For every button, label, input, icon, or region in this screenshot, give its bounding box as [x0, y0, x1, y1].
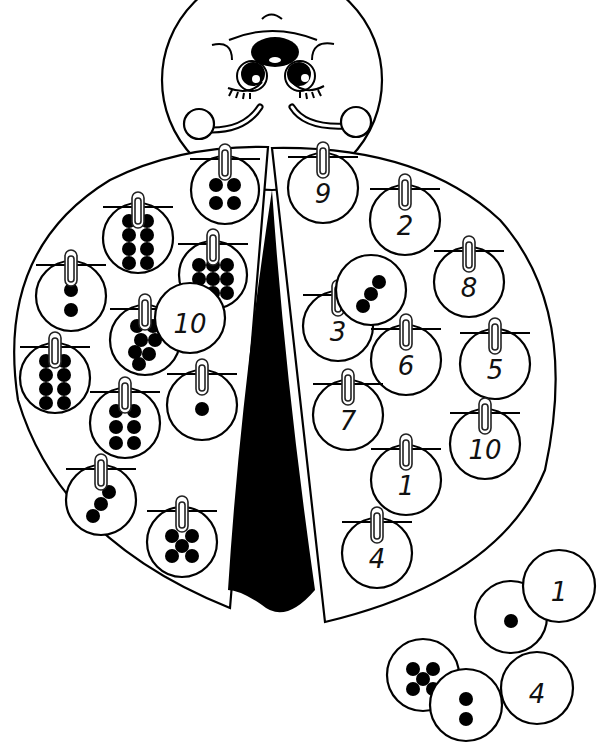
dot — [39, 382, 53, 396]
dot — [504, 614, 518, 628]
dot — [64, 303, 78, 317]
dot — [127, 420, 141, 434]
dot — [140, 228, 154, 242]
dot — [140, 242, 154, 256]
card-number: 4 — [369, 544, 386, 574]
dot — [175, 539, 189, 553]
card-number: 3 — [330, 317, 347, 347]
dot — [364, 287, 378, 301]
dot — [209, 196, 223, 210]
dot — [140, 256, 154, 270]
dot — [406, 682, 420, 696]
dot — [372, 275, 386, 289]
dot — [39, 368, 53, 382]
dot — [57, 396, 71, 410]
card-number: 10 — [468, 435, 501, 465]
dot — [459, 692, 473, 706]
dot — [185, 549, 199, 563]
dot — [459, 712, 473, 726]
dot-card[interactable] — [336, 255, 406, 325]
card-number: 1 — [398, 471, 415, 501]
dot — [57, 382, 71, 396]
card-number: 2 — [397, 211, 414, 241]
dot — [227, 196, 241, 210]
dot — [220, 272, 234, 286]
dot — [122, 242, 136, 256]
dot — [94, 497, 108, 511]
card-number: 5 — [487, 355, 504, 385]
card-number: 7 — [340, 406, 357, 436]
dot — [39, 396, 53, 410]
dot — [132, 357, 146, 371]
dot — [57, 368, 71, 382]
dot — [356, 299, 370, 313]
card-number: 4 — [529, 679, 546, 709]
dot — [406, 662, 420, 676]
card-number: 8 — [461, 273, 478, 303]
ladybug-illustration: 928365710141014 — [0, 0, 599, 743]
dot — [86, 509, 100, 523]
dot — [192, 258, 206, 272]
dot — [109, 420, 123, 434]
number-card[interactable]: 10 — [155, 283, 225, 353]
dot-card[interactable] — [430, 669, 502, 741]
card-number: 9 — [315, 179, 332, 209]
dot — [122, 228, 136, 242]
dot — [416, 672, 430, 686]
dot — [134, 333, 148, 347]
dot — [122, 256, 136, 270]
dot — [227, 178, 241, 192]
dot — [127, 436, 141, 450]
dot — [142, 347, 156, 361]
ladybug-canvas: 928365710141014 — [0, 0, 599, 743]
number-card[interactable]: 4 — [501, 652, 573, 724]
dot — [185, 529, 199, 543]
card-number: 1 — [551, 577, 568, 607]
dot — [165, 549, 179, 563]
dot — [206, 272, 220, 286]
card-number: 10 — [173, 309, 206, 339]
dot — [220, 258, 234, 272]
dot — [220, 286, 234, 300]
card-number: 6 — [398, 351, 415, 381]
dot — [195, 402, 209, 416]
dot — [128, 345, 142, 359]
dot — [426, 662, 440, 676]
dot — [209, 178, 223, 192]
dot — [109, 436, 123, 450]
number-card[interactable]: 1 — [523, 550, 595, 622]
dot — [165, 529, 179, 543]
